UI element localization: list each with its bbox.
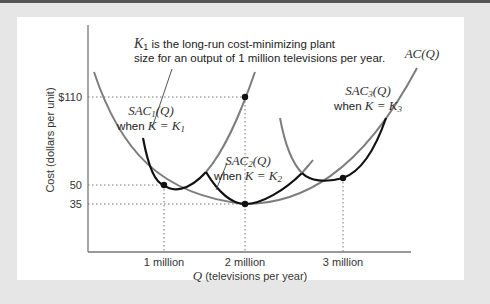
y-tick-50: 50 [70,179,82,191]
x-tick-1m: 1 million [144,256,184,268]
cost-curves-chart: $110 50 35 1 million 2 million 3 million… [0,0,490,304]
y-tick-110: $110 [58,91,82,103]
sac3-when-label: when K = K3 [333,98,402,114]
point-q2-110 [242,94,248,100]
sac2-when-label: when K = K2 [213,168,282,184]
sac2-curve-inactive [302,160,313,173]
note-line-1: K1 is the long-run cost-minimizing plant [133,36,336,52]
sac1-label: SAC1(Q) [128,103,174,119]
x-tick-2m: 2 million [225,256,265,268]
x-axis-title: Q (televisions per year) [193,268,308,283]
y-tick-35: 35 [70,198,82,210]
sac3-curve-active [302,118,386,181]
sac1-curve-active [143,138,206,189]
sac2-label: SAC2(Q) [225,153,271,169]
x-tick-3m: 3 million [323,256,363,268]
point-q3-50 [340,175,346,181]
note-line-2: size for an output of 1 million televisi… [134,52,385,64]
y-axis-title: Cost (dollars per unit) [44,87,56,192]
ac-label: AC(Q) [404,46,440,61]
sac1-when-label: when K = K1 [116,118,185,134]
point-q1-50 [161,182,167,188]
sac3-curve-inactive [280,118,302,173]
point-q2-35 [242,201,248,207]
sac3-label: SAC3(Q) [345,83,391,99]
